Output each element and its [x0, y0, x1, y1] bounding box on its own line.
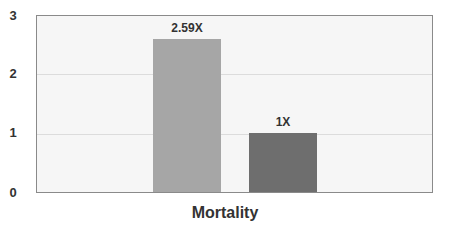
bar-label-group-a: 2.59X: [147, 21, 227, 35]
y-tick-0: 0: [6, 186, 20, 200]
gridline-2: [37, 74, 432, 75]
gridline-1: [37, 134, 432, 135]
y-tick-3: 3: [6, 9, 20, 23]
bar-group-a: [153, 39, 221, 192]
x-axis-label: Mortality: [0, 204, 450, 222]
bar-label-group-b: 1X: [243, 115, 323, 129]
plot-area: [36, 15, 433, 193]
y-tick-1: 1: [6, 126, 20, 140]
y-tick-2: 2: [6, 67, 20, 81]
bar-group-b: [249, 133, 317, 192]
